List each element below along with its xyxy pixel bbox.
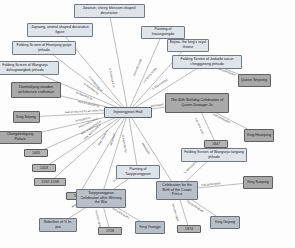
graph-node[interactable]: Eojwa, the king's royal throne (167, 39, 209, 52)
node-layer: is composed ofis composed ofis depicted … (0, 0, 295, 248)
edge-label: was produced by an order from (65, 108, 105, 114)
graph-node[interactable]: Taepyeongyeon Celebration after Winning … (76, 189, 126, 208)
edge-label: had participant (111, 206, 129, 219)
graph-node[interactable]: King Sejong (13, 111, 40, 123)
graph-node-center[interactable]: Injeongjeon Hall (104, 107, 152, 118)
graph-node[interactable]: King Yeongjo (135, 221, 165, 234)
edge-label: has time span (194, 117, 205, 135)
graph-node[interactable]: King Heonjong (244, 129, 274, 142)
graph-node[interactable]: 1874 (177, 225, 201, 233)
graph-node[interactable]: The 40th Birthday Celebration of Queen D… (165, 93, 229, 113)
graph-node[interactable]: Painting of Taepyeongyeon (116, 165, 160, 179)
graph-node[interactable]: Jiwanun, cherry blossom-shaped decoratio… (74, 4, 145, 18)
edge-label: currently holds (131, 58, 142, 77)
edge-label: has time span (94, 209, 103, 228)
edge-label: is depicted by (151, 78, 168, 91)
edge-label: had participant (186, 200, 204, 214)
graph-node[interactable]: 1405 (24, 149, 48, 157)
graph-node[interactable]: Folding Screen of Wangseja dohugwongbok … (0, 61, 59, 75)
graph-node[interactable]: Japsang, animal-shaped decorative figure (27, 23, 93, 37)
graph-node[interactable]: Changdeokgung Palace (0, 131, 42, 144)
graph-node[interactable]: 1592-1598 (34, 178, 66, 186)
edge-label: had participant (201, 181, 220, 187)
edge-label: witnessed (108, 133, 116, 147)
edge-label: has time span (171, 204, 180, 223)
graph-node[interactable]: Folding Screen of Heonjong gatye jinhado (12, 41, 76, 55)
edge-label: witnessed (150, 103, 163, 109)
graph-node[interactable]: Queen Sinjeong (238, 74, 271, 87)
graph-node[interactable]: 1728 (98, 227, 122, 235)
edge-label: witnessed (140, 142, 150, 155)
graph-node[interactable]: 1847 (204, 140, 228, 148)
knowledge-graph-canvas: is composed ofis composed ofis depicted … (0, 0, 295, 248)
graph-node[interactable]: Celebration for the Birth of the Crown P… (156, 181, 198, 200)
graph-node[interactable]: Folding Screen of Jodaebi sasun chinggye… (172, 55, 242, 69)
graph-node[interactable]: Rebellion of Yi In-jwa (39, 218, 77, 232)
graph-node[interactable]: King Sunjong (243, 176, 273, 189)
edge-label: is depicted by (121, 135, 128, 153)
graph-node[interactable]: King Gojong (210, 216, 240, 229)
graph-node[interactable]: Folding Screen of Wangseja tangang jinha… (181, 148, 247, 162)
graph-node[interactable]: Painting of Inwangsingdo (141, 26, 185, 39)
graph-node[interactable]: 1418 (32, 164, 56, 172)
edge-label: was produced by (78, 99, 100, 108)
edge-label: was rebuilt in (97, 130, 109, 147)
edge-label: had participant (213, 113, 232, 125)
graph-node[interactable]: Daemokjang wooden architecture craftsman (11, 82, 61, 98)
edge-label: is composed of (108, 67, 116, 87)
edge-label: currently holds (142, 66, 158, 83)
